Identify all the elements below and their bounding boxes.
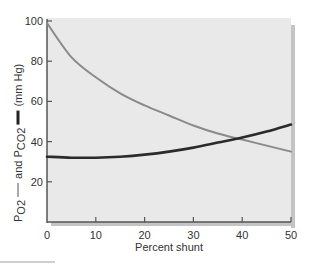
y-label-units: (mm Hg) — [12, 64, 24, 107]
plot-shadow-right — [291, 25, 295, 228]
y-label-and-pco2: and P — [12, 150, 24, 179]
y-label-pco2-sub: CO2 — [15, 128, 27, 151]
y-tick-label: 100 — [25, 15, 43, 27]
x-tick-label: 30 — [187, 229, 199, 241]
chart: 2040608010001020304050 Percent shunt PO2… — [0, 0, 310, 264]
y-axis-label: PO2and PCO2(mm Hg) — [12, 64, 27, 222]
x-tick-label: 50 — [285, 229, 297, 241]
y-tick-label: 40 — [31, 136, 43, 148]
y-tick-label: 80 — [31, 55, 43, 67]
x-tick-label: 20 — [138, 229, 150, 241]
x-axis-label: Percent shunt — [135, 241, 203, 253]
y-tick-label: 20 — [31, 176, 43, 188]
bottom-rule — [0, 261, 55, 263]
y-label-po2-sub: O2 — [15, 200, 27, 215]
x-tick-label: 0 — [44, 229, 50, 241]
x-tick-label: 40 — [236, 229, 248, 241]
y-tick-label: 60 — [31, 95, 43, 107]
y-label-po2: P — [12, 215, 24, 222]
x-tick-label: 10 — [90, 229, 102, 241]
plot-area — [47, 18, 291, 222]
